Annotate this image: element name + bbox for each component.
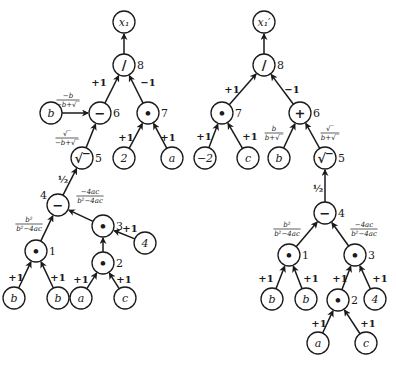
node-label: / [122,58,127,73]
node-label: • [285,248,293,263]
operation-node: √‾5 [314,147,345,169]
node-label: + [295,106,306,121]
node-label: • [32,244,40,259]
operation-node: −4 [314,202,345,224]
computation-graph-figure: +1−1−b−b+√‾√‾−b+√‾+1+1½b²b²−4ac−4acb²−4a… [0,0,396,365]
operation-node: +6 [289,102,320,124]
edge-weight-label: ½ [58,174,68,185]
node-index: 3 [116,220,123,233]
node-label: c [122,292,128,305]
operation-node: /8 [253,54,284,76]
input-node: x₁ [113,11,135,33]
edge-weight-label: −1 [140,77,155,88]
fraction-numerator: b² [283,221,290,229]
edge-weight-label: +1 [91,77,106,88]
fraction-denominator: b²−4ac [274,230,300,238]
edge-arrow [228,123,242,148]
node-label: b [302,293,309,306]
input-node: −2 [194,147,216,169]
fraction-numerator: b² [25,216,32,224]
edge-weight-label: ½ [313,183,323,194]
input-node: x₁′ [253,11,275,33]
edge-weight-label: +1 [50,272,65,283]
node-index: 5 [95,152,102,165]
node-index: 2 [116,257,123,270]
input-node: 4 [364,288,386,310]
node-label: − [53,198,64,213]
node-label: • [334,293,342,308]
node-label: / [262,58,267,73]
edge-arrow [276,266,285,289]
input-node: c [355,332,377,354]
operation-node: •7 [137,102,168,124]
edge-weight-label: +1 [118,132,133,143]
operation-node: −6 [89,102,120,124]
input-node: b [40,102,62,124]
edge-weight-label: +1 [303,273,318,284]
node-index: 8 [137,59,144,72]
edge-weight-label: +1 [242,131,257,142]
node-label: √‾ [74,151,90,166]
node-label: − [320,206,331,221]
fraction-numerator: √‾ [63,130,71,138]
node-label: • [144,106,152,121]
node-label: b [47,107,54,120]
node-index: 1 [302,249,309,262]
node-label: a [78,292,85,305]
edge-weight-label: +1 [332,273,347,284]
operation-node: •1 [278,244,309,266]
operation-node: •7 [211,102,242,124]
node-label: c [363,337,369,350]
fraction-denominator: b²−4ac [77,197,103,205]
input-node: b [3,287,25,309]
edge-fraction-label: b²b²−4ac [273,221,300,238]
diagram-svg: +1−1−b−b+√‾√‾−b+√‾+1+1½b²b²−4ac−4acb²−4a… [0,0,396,365]
edge-weight-label: +1 [360,318,375,329]
operation-node: √‾5 [71,147,102,169]
fraction-denominator: b²−4ac [16,225,42,233]
operation-node: /8 [113,54,144,76]
edge-weight-label: +1 [196,131,211,142]
edge-weight-label: −1 [284,84,299,95]
input-node: c [114,287,136,309]
edge-weight-label: +1 [73,274,88,285]
operation-node: •2 [92,252,123,274]
input-node: b [268,147,290,169]
edge-arrow [86,124,95,148]
node-label: √‾ [317,151,333,166]
node-label: • [99,219,107,234]
node-index: 3 [368,249,375,262]
edge-weight-label: +1 [116,274,131,285]
operation-node: •1 [25,240,56,262]
node-index: 1 [49,245,56,258]
node-label: c [245,152,251,165]
node-index: 4 [40,189,47,202]
operation-node: •3 [344,244,375,266]
node-index: 6 [313,107,320,120]
edge-fraction-label: −4acb²−4ac [76,188,103,205]
edge-arrow [360,266,370,289]
node-label: − [95,106,106,121]
node-index: 5 [338,152,345,165]
edge-arrow [293,266,302,289]
edge-fraction-label: √‾−b+√‾ [55,130,80,147]
node-label: −2 [197,152,213,165]
fraction-numerator: −4ac [81,188,99,196]
node-index: 6 [113,107,120,120]
edge-weight-label: +1 [372,273,387,284]
edge-arrow [306,123,320,148]
fraction-denominator: b+√‾ [265,134,284,142]
edge-weight-label: +1 [311,318,326,329]
edge-arrow [345,310,360,334]
input-node: a [70,287,92,309]
node-label: x₁ [119,16,130,29]
edge-fraction-label: bb+√‾ [265,125,284,142]
fraction-numerator: √‾ [326,125,334,133]
fraction-numerator: −4ac [355,221,373,229]
edge-weight-label: +1 [8,272,23,283]
node-index: 7 [235,107,242,120]
input-node: 4 [134,232,156,254]
fraction-denominator: b+√‾ [321,134,340,142]
fraction-denominator: −b+√‾ [55,139,80,147]
node-label: b [10,292,17,305]
